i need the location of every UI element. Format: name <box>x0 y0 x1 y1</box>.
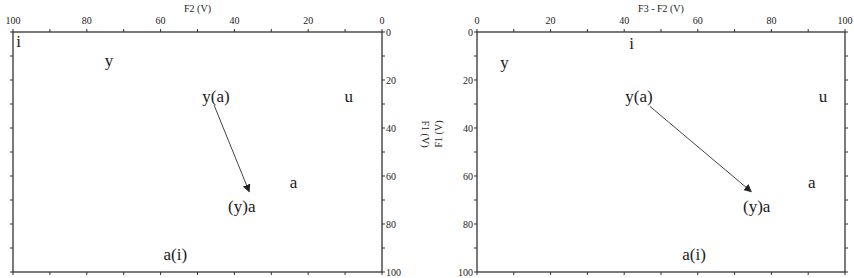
vowel-label: y(a) <box>625 87 652 106</box>
vowel-label: y <box>105 51 114 70</box>
x-tick-label: 20 <box>303 15 313 26</box>
y-tick-label: 100 <box>386 267 401 278</box>
y-tick-label: 40 <box>463 123 473 134</box>
vowel-label: a(i) <box>164 245 188 264</box>
vowel-label: u <box>819 87 828 106</box>
y-tick-label: 80 <box>386 219 396 230</box>
vowel-label: a <box>290 173 298 192</box>
x-tick-label: 80 <box>766 15 776 26</box>
plot-frame <box>13 32 382 272</box>
chart-right-f3f2-vs-f1: 020406080100020406080100F3 - F2 (V)F1 (V… <box>433 3 853 278</box>
y-tick-label: 60 <box>463 171 473 182</box>
plot-frame <box>477 32 845 272</box>
y-tick-label: 20 <box>463 75 473 86</box>
x-tick-label: 40 <box>619 15 629 26</box>
x-tick-label: 60 <box>156 15 166 26</box>
x-tick-label: 0 <box>380 15 385 26</box>
y-tick-label: 20 <box>386 75 396 86</box>
y-tick-label: 60 <box>386 171 396 182</box>
y-axis-title: F1 (V) <box>433 121 445 148</box>
y-tick-label: 80 <box>463 219 473 230</box>
x-axis-title: F3 - F2 (V) <box>638 3 684 15</box>
vowel-label: i <box>629 34 634 53</box>
y-axis-title: F1 (V) <box>419 121 431 148</box>
chart-left-f2-vs-f1: 100806040200020406080100F2 (V)F1 (V)iyy(… <box>6 3 432 278</box>
vowel-label: a <box>808 173 816 192</box>
x-axis-title: F2 (V) <box>184 3 211 15</box>
x-tick-label: 0 <box>475 15 480 26</box>
y-tick-label: 100 <box>458 267 473 278</box>
vowel-formant-charts: 100806040200020406080100F2 (V)F1 (V)iyy(… <box>0 0 854 278</box>
x-tick-label: 100 <box>6 15 21 26</box>
vowel-label: y <box>500 53 509 72</box>
vowel-label: i <box>16 32 21 51</box>
vowel-label: (y)a <box>228 197 256 216</box>
y-tick-label: 0 <box>468 27 473 38</box>
vowel-label: (y)a <box>743 197 771 216</box>
vowel-label: y(a) <box>202 87 229 106</box>
vowel-label: a(i) <box>682 245 706 264</box>
y-tick-label: 40 <box>386 123 396 134</box>
x-tick-label: 40 <box>229 15 239 26</box>
x-tick-label: 100 <box>838 15 853 26</box>
shift-arrow <box>214 105 249 191</box>
vowel-label: u <box>345 87 354 106</box>
shift-arrow <box>650 106 751 191</box>
x-tick-label: 20 <box>546 15 556 26</box>
x-tick-label: 80 <box>82 15 92 26</box>
y-tick-label: 0 <box>386 27 391 38</box>
x-tick-label: 60 <box>693 15 703 26</box>
